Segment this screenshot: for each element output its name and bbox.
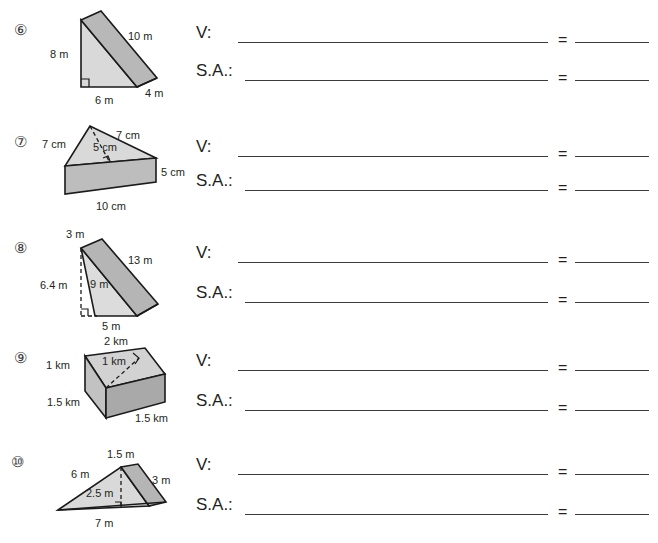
volume-answer-blank-7[interactable] — [238, 156, 548, 157]
equals-sign-8-volume: = — [558, 252, 567, 268]
problem-8: ⑧ 3 m 13 m 6.4 m 9 m 5 m — [0, 226, 658, 336]
surface-area-result-blank-6[interactable] — [575, 80, 649, 81]
problem-number-10: ⑩ — [11, 454, 24, 469]
problem-7: ⑦ 7 cm 7 cm 5 cm 5 cm 10 cm V: — [0, 118, 658, 226]
surface-area-answer-blank-8[interactable] — [245, 302, 548, 303]
label-7-left-side: 7 cm — [42, 138, 66, 150]
surface-area-answer-blank-9[interactable] — [245, 410, 548, 411]
equals-sign-10-volume: = — [558, 464, 567, 480]
equals-sign-9-volume: = — [558, 360, 567, 376]
surface-area-answer-blank-6[interactable] — [245, 80, 548, 81]
label-10-slant: 6 m — [71, 468, 89, 480]
problem-6: ⑥ 8 m 10 m 6 m 4 m V: = — [0, 0, 658, 118]
volume-label-10: V: — [196, 454, 211, 476]
equals-sign-7-volume: = — [558, 146, 567, 162]
surface-area-label-8: S.A.: — [196, 282, 233, 304]
label-6-base: 6 m — [95, 94, 113, 106]
equals-sign-9-sa: = — [558, 400, 567, 416]
surface-area-answer-blank-10[interactable] — [245, 514, 548, 515]
problem-number-7: ⑦ — [14, 134, 27, 149]
label-6-depth: 4 m — [145, 87, 163, 99]
surface-area-answer-blank-7[interactable] — [245, 190, 548, 191]
equals-sign-6-sa: = — [558, 70, 567, 86]
problem-10: ⑩ 1.5 m 6 m 2.5 m 3 m 7 m V: — [0, 440, 658, 543]
volume-answer-blank-6[interactable] — [238, 42, 548, 43]
figure-10: 1.5 m 6 m 2.5 m 3 m 7 m — [40, 440, 200, 543]
equals-sign-7-sa: = — [558, 180, 567, 196]
figure-7: 7 cm 7 cm 5 cm 5 cm 10 cm — [40, 118, 200, 236]
problem-9: ⑨ 1 km 2 km 1 km 1.5 km 1.5 km V: — [0, 336, 658, 440]
volume-answer-blank-10[interactable] — [238, 474, 548, 475]
answers-8: V: = S.A.: = — [196, 226, 658, 336]
answers-10: V: = S.A.: = — [196, 440, 658, 543]
label-10-altitude: 2.5 m — [86, 487, 114, 499]
label-9-front-bottom: 1.5 km — [135, 412, 168, 424]
volume-label-8: V: — [196, 242, 211, 264]
label-9-front-left: 1.5 km — [47, 396, 80, 408]
label-7-base: 10 cm — [96, 200, 126, 212]
figure-9: 1 km 2 km 1 km 1.5 km 1.5 km — [40, 336, 200, 454]
equals-sign-8-sa: = — [558, 292, 567, 308]
worksheet-page: ⑥ 8 m 10 m 6 m 4 m V: = — [0, 0, 658, 543]
equals-sign-10-sa: = — [558, 504, 567, 520]
surface-area-result-blank-9[interactable] — [575, 410, 649, 411]
answers-6: V: = S.A.: = — [196, 0, 658, 118]
surface-area-label-6: S.A.: — [196, 60, 233, 82]
problem-number-9: ⑨ — [14, 350, 27, 365]
surface-area-label-9: S.A.: — [196, 390, 233, 412]
answers-9: V: = S.A.: = — [196, 336, 658, 440]
volume-answer-blank-9[interactable] — [238, 370, 548, 371]
figure-6: 8 m 10 m 6 m 4 m — [40, 0, 200, 118]
figure-8: 3 m 13 m 6.4 m 9 m 5 m — [40, 226, 200, 344]
problem-number-8: ⑧ — [14, 240, 27, 255]
equals-sign-6-volume: = — [558, 32, 567, 48]
problem-number-6: ⑥ — [14, 22, 27, 37]
label-7-prism-height: 5 cm — [161, 166, 185, 178]
label-6-height: 8 m — [50, 48, 68, 60]
label-7-right-side: 7 cm — [116, 129, 140, 141]
answers-7: V: = S.A.: = — [196, 118, 658, 226]
volume-label-6: V: — [196, 22, 211, 44]
label-8-side: 9 m — [90, 278, 108, 290]
volume-label-9: V: — [196, 350, 211, 372]
label-8-slant: 13 m — [128, 254, 152, 266]
label-9-top-edge: 2 km — [104, 335, 128, 347]
label-9-left-edge: 1 km — [46, 359, 70, 371]
label-10-base: 7 m — [95, 517, 113, 529]
label-10-top: 1.5 m — [107, 448, 135, 460]
volume-result-blank-10[interactable] — [575, 474, 649, 475]
surface-area-result-blank-7[interactable] — [575, 190, 649, 191]
surface-area-label-7: S.A.: — [196, 170, 233, 192]
label-8-altitude: 6.4 m — [40, 279, 68, 291]
label-8-top: 3 m — [66, 228, 84, 240]
label-9-altitude: 1 km — [102, 355, 126, 367]
volume-result-blank-9[interactable] — [575, 370, 649, 371]
label-7-altitude: 5 cm — [93, 141, 117, 153]
label-6-hypotenuse: 10 m — [128, 30, 152, 42]
surface-area-result-blank-10[interactable] — [575, 514, 649, 515]
label-10-right-side: 3 m — [152, 474, 170, 486]
surface-area-label-10: S.A.: — [196, 494, 233, 516]
volume-answer-blank-8[interactable] — [238, 262, 548, 263]
volume-label-7: V: — [196, 136, 211, 158]
label-8-base: 5 m — [102, 320, 120, 332]
volume-result-blank-7[interactable] — [575, 156, 649, 157]
volume-result-blank-8[interactable] — [575, 262, 649, 263]
volume-result-blank-6[interactable] — [575, 42, 649, 43]
surface-area-result-blank-8[interactable] — [575, 302, 649, 303]
